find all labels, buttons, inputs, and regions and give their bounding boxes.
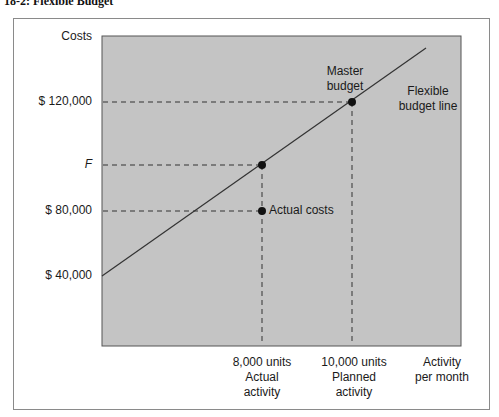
y-tick-120000: $ 120,000 [12, 94, 92, 109]
plot-area [102, 36, 461, 346]
y-axis-title: Costs [12, 29, 92, 44]
x-axis-title: Activity per month [397, 355, 487, 385]
x-tick-10000-units: 10,000 units Planned activity [309, 355, 399, 400]
flexible-budget-line-label: Flexible budget line [390, 84, 466, 114]
master-budget-point [348, 98, 356, 106]
y-tick-40000: $ 40,000 [12, 268, 92, 283]
f-point [258, 161, 266, 169]
actual-costs-point [258, 207, 266, 215]
actual-costs-label: Actual costs [269, 203, 334, 218]
master-budget-label: Master budget [314, 64, 376, 94]
y-tick-f: F [12, 157, 92, 172]
y-tick-80000: $ 80,000 [12, 203, 92, 218]
x-tick-8000-units: 8,000 units Actual activity [217, 355, 307, 400]
